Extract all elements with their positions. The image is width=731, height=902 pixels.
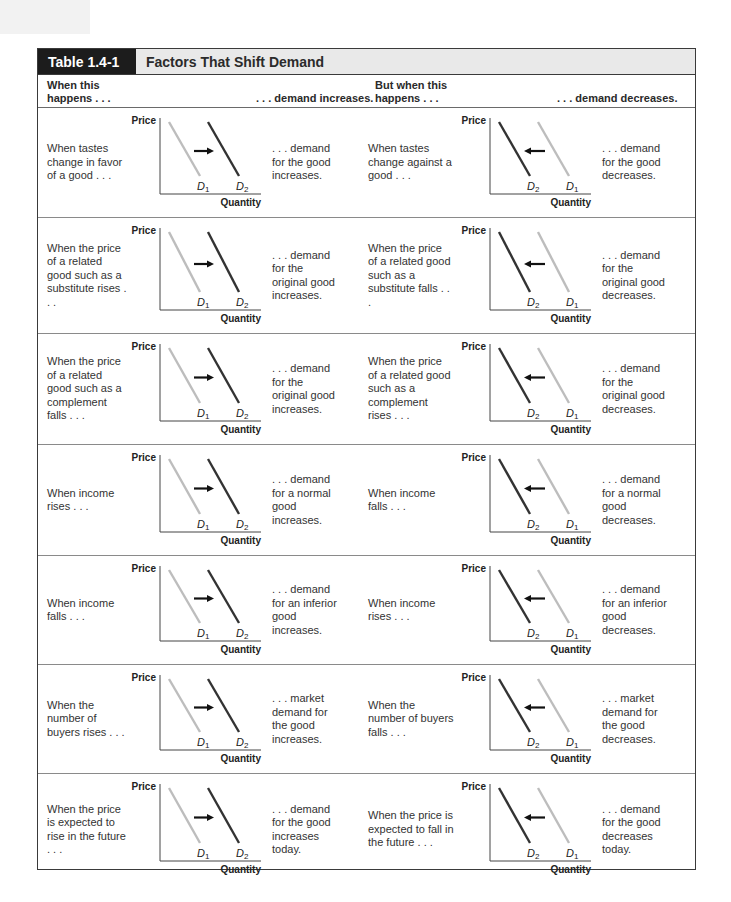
demand-decrease-graph: PriceQuantityD2D1 [456,334,586,444]
curve-label-d2: D2 [527,296,540,310]
header-decrease-result: . . . demand decreases. [557,92,677,105]
arrow-right-icon [194,374,214,381]
increase-condition: When the price of a related good such as… [47,334,127,444]
curve-label-d2: D2 [527,407,540,421]
x-axis-label: Quantity [550,197,591,208]
arrow-right-icon [194,148,214,155]
arrow-right-icon [194,261,214,268]
demand-curve-d2 [208,122,239,176]
demand-curve-d1 [169,122,200,176]
demand-curve-d1 [169,232,200,292]
increase-result: . . . demand for the good increases toda… [272,774,340,885]
x-axis-label: Quantity [220,197,261,208]
curve-label-d2: D2 [236,518,249,532]
demand-decrease-graph: PriceQuantityD2D1 [456,218,586,333]
table-title: Factors That Shift Demand [136,49,695,74]
table-row: When the price is expected to rise in th… [38,774,695,885]
demand-curve-d2 [208,459,239,514]
table-number: Table 1.4-1 [38,49,136,74]
decrease-condition: When the price is expected to fall in th… [368,774,454,885]
arrow-left-icon [524,261,545,268]
demand-curve-d2 [208,232,239,292]
curve-label-d1: D1 [566,627,579,641]
decrease-condition: When income falls . . . [368,445,454,555]
header-increase-result: . . . demand increases. [256,92,373,105]
curve-label-d1: D1 [197,627,210,641]
y-axis-label: Price [132,115,157,126]
curve-label-d1: D1 [566,736,579,750]
x-axis-label: Quantity [550,313,591,324]
curve-label-d2: D2 [236,296,249,310]
demand-curve-d2 [499,348,530,403]
demand-curve-d1 [538,570,569,623]
increase-result: . . . market demand for the good increas… [272,665,340,773]
curve-label-d2: D2 [236,180,249,194]
demand-curve-d2 [208,570,239,623]
demand-increase-graph: PriceQuantityD1D2 [126,665,256,773]
demand-curve-d2 [499,232,530,292]
decrease-result: . . . demand for a normal good decreases… [602,445,670,555]
curve-label-d1: D1 [197,847,210,861]
arrow-right-icon [194,485,214,492]
y-axis-label: Price [132,341,157,352]
demand-curve-d1 [169,788,200,843]
demand-curve-d2 [499,122,530,176]
decrease-result: . . . demand for an inferior good decrea… [602,556,670,664]
y-axis-label: Price [462,225,487,236]
table-row: When the price of a related good such as… [38,334,695,445]
curve-label-d2: D2 [236,627,249,641]
demand-increase-graph: PriceQuantityD1D2 [126,445,256,555]
x-axis-label: Quantity [550,753,591,764]
header-increase-condition: When this happens . . . [47,79,111,105]
curve-label-d2: D2 [236,736,249,750]
y-axis-label: Price [462,341,487,352]
table-row: When income rises . . . PriceQuantityD1D… [38,445,695,556]
increase-condition: When tastes change in favor of a good . … [47,108,127,217]
arrow-right-icon [194,704,214,711]
curve-label-d2: D2 [527,736,540,750]
curve-label-d2: D2 [527,180,540,194]
y-axis-label: Price [462,781,487,792]
curve-label-d1: D1 [566,847,579,861]
y-axis-label: Price [132,452,157,463]
table-row: When the price of a related good such as… [38,218,695,334]
y-axis-label: Price [462,115,487,126]
increase-result: . . . demand for the original good incre… [272,334,340,444]
demand-curve-d2 [499,788,530,843]
decrease-result: . . . demand for the good decreases. [602,108,670,217]
header-decrease-condition: But when this happens . . . [375,79,447,105]
y-axis-label: Price [462,452,487,463]
arrow-left-icon [524,704,545,711]
demand-decrease-graph: PriceQuantityD2D1 [456,445,586,555]
demand-curve-d1 [169,459,200,514]
increase-result: . . . demand for the good increases. [272,108,340,217]
table-body: When tastes change in favor of a good . … [38,108,695,885]
x-axis-label: Quantity [220,644,261,655]
increase-condition: When the number of buyers rises . . . [47,665,127,773]
curve-label-d2: D2 [527,847,540,861]
y-axis-label: Price [462,563,487,574]
x-axis-label: Quantity [220,535,261,546]
curve-label-d2: D2 [236,407,249,421]
table-row: When the number of buyers rises . . . Pr… [38,665,695,774]
arrow-right-icon [194,595,214,602]
x-axis-label: Quantity [550,864,591,875]
increase-result: . . . demand for a normal good increases… [272,445,340,555]
demand-curve-d2 [208,679,239,732]
demand-increase-graph: PriceQuantityD1D2 [126,218,256,333]
x-axis-label: Quantity [220,753,261,764]
decrease-condition: When the price of a related good such as… [368,334,454,444]
x-axis-label: Quantity [220,424,261,435]
page-margin-strip [0,0,90,34]
arrow-left-icon [524,374,545,381]
demand-curve-d2 [499,459,530,514]
curve-label-d1: D1 [566,296,579,310]
demand-curve-d1 [538,348,569,403]
curve-label-d1: D1 [197,407,210,421]
demand-decrease-graph: PriceQuantityD2D1 [456,774,586,885]
decrease-condition: When the price of a related good such as… [368,218,454,333]
demand-curve-d1 [538,679,569,732]
decrease-result: . . . demand for the original good decre… [602,334,670,444]
demand-curve-d1 [538,459,569,514]
table-row: When income falls . . . PriceQuantityD1D… [38,556,695,665]
